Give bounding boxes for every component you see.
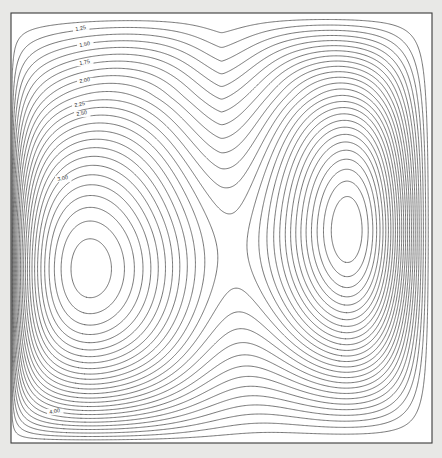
contour-plot-figure: 1.251.501.752.002.252.503.004.00 (0, 0, 442, 458)
contour-plot-canvas: 1.251.501.752.002.252.503.004.00 (0, 0, 442, 458)
